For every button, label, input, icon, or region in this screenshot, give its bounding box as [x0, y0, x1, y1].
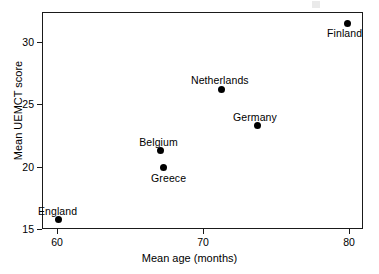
data-point-label: Finland: [327, 28, 362, 39]
data-point-label: Netherlands: [191, 75, 249, 86]
y-tick: [37, 229, 42, 230]
scatter-plot-figure: 607080 15202530 EnglandBelgiumGreeceNeth…: [0, 0, 379, 274]
y-tick: [37, 42, 42, 43]
y-axis-title: Mean UEMCT score: [12, 31, 25, 191]
x-axis-title: Mean age (months): [0, 252, 379, 265]
x-tick-label: 70: [197, 236, 209, 248]
x-tick-label: 60: [51, 236, 63, 248]
plot-frame: [42, 12, 363, 229]
x-tick: [203, 229, 204, 234]
data-point: [344, 20, 351, 27]
x-tick-label: 80: [343, 236, 355, 248]
x-tick: [349, 229, 350, 234]
y-tick: [37, 167, 42, 168]
data-point-label: Germany: [233, 112, 277, 123]
data-point-label: Belgium: [139, 137, 178, 148]
data-point-label: Greece: [151, 173, 186, 184]
y-tick-label: 15: [14, 223, 34, 235]
x-tick: [57, 229, 58, 234]
data-point-label: England: [38, 206, 77, 217]
y-tick: [37, 104, 42, 105]
data-point: [254, 122, 261, 129]
scan-artifact: [312, 1, 320, 8]
